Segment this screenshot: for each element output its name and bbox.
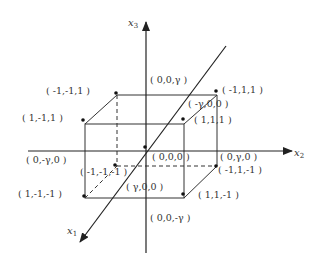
label-vertex-111: ( 1,1,1 ) bbox=[194, 114, 232, 125]
label-origin: ( 0,0,0 ) bbox=[152, 151, 190, 162]
label-vertex-1m11: ( 1,-1,1 ) bbox=[22, 112, 63, 123]
cube-diagram: x3 x2 x1 ( -1,-1,1 ) ( 1,-1,1 ) ( 0,0,γ … bbox=[0, 0, 320, 267]
x3-axis-label: x3 bbox=[128, 17, 138, 30]
label-point-mg00: ( -γ,0,0 ) bbox=[188, 98, 228, 109]
x2-axis-label: x2 bbox=[294, 147, 304, 160]
label-point-0g0: ( 0,γ,0 ) bbox=[220, 151, 257, 162]
label-point-0mg0: ( 0,-γ,0 ) bbox=[26, 154, 66, 165]
x1-axis-label: x1 bbox=[67, 225, 77, 238]
label-point-00mg: ( 0,0,-γ ) bbox=[150, 212, 190, 223]
label-vertex-m1m11: ( -1,-1,1 ) bbox=[46, 85, 90, 96]
label-vertex-m11m1: ( -1,1,-1 ) bbox=[218, 164, 262, 175]
label-vertex-11m1: ( 1,1,-1 ) bbox=[198, 189, 239, 200]
label-point-00g: ( 0,0,γ ) bbox=[150, 74, 187, 85]
label-vertex-m111: ( -1,1,1 ) bbox=[222, 84, 263, 95]
label-point-g00: ( γ,0,0 ) bbox=[126, 181, 163, 192]
label-vertex-1m1m1: ( 1,-1,-1 ) bbox=[18, 188, 62, 199]
label-vertex-m1m1m1: ( -1,-1,-1 ) bbox=[80, 166, 127, 177]
